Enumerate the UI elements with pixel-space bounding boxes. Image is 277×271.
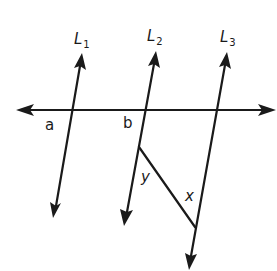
line-l2	[120, 51, 160, 226]
label-l1: L1	[74, 32, 90, 47]
label-l1-text: L	[74, 30, 82, 48]
label-l2: L2	[147, 29, 163, 44]
label-l1-subscript: 1	[83, 39, 89, 50]
label-l3-text: L	[220, 28, 228, 46]
angle-label-b: b	[123, 116, 133, 131]
label-l2-subscript: 2	[156, 36, 162, 47]
label-l2-text: L	[147, 27, 155, 45]
label-l3: L3	[220, 30, 236, 45]
label-l3-subscript: 3	[229, 37, 235, 48]
angle-label-y: y	[141, 170, 150, 185]
angle-label-x: x	[185, 189, 194, 204]
angle-label-a: a	[45, 118, 54, 133]
line-l1	[50, 53, 86, 218]
line-l3	[185, 52, 231, 270]
